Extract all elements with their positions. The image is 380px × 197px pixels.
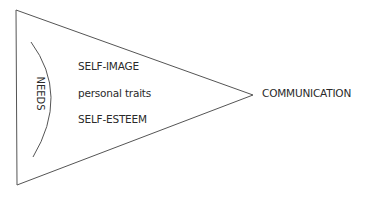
self-image-label: SELF-IMAGE [78, 60, 139, 72]
self-esteem-label: SELF-ESTEEM [78, 113, 147, 125]
needs-label: NEEDS [35, 74, 46, 114]
communication-label: COMMUNICATION [262, 87, 351, 99]
personal-traits-label: personal traits [78, 87, 151, 99]
